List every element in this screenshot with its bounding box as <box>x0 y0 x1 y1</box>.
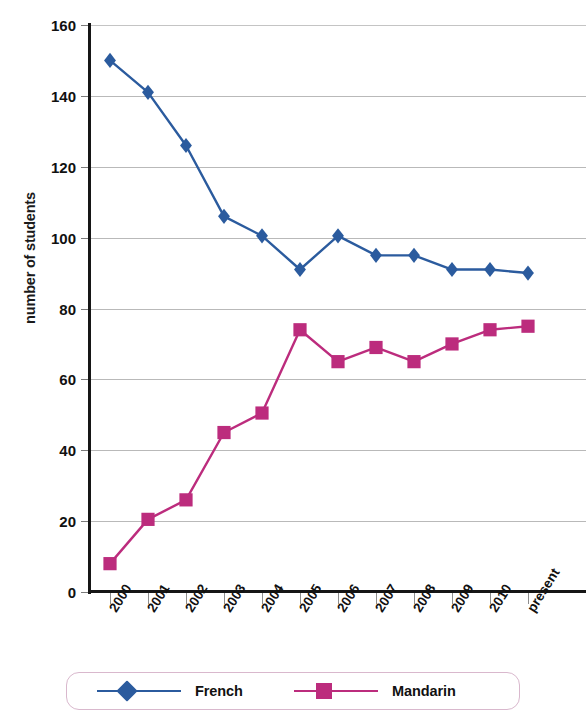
gridline <box>88 450 586 451</box>
y-tick-label: 0 <box>30 584 76 601</box>
y-axis-title: number of students <box>22 168 38 348</box>
gridline <box>88 379 586 380</box>
legend-line-french <box>97 690 181 693</box>
y-tick-label: 160 <box>30 17 76 34</box>
gridline <box>88 309 586 310</box>
y-tick-mark <box>81 450 88 451</box>
y-tick-label: 40 <box>30 442 76 459</box>
y-tick-label: 140 <box>30 87 76 104</box>
legend-label-mandarin: Mandarin <box>392 683 456 699</box>
y-tick-label: 120 <box>30 158 76 175</box>
y-tick-mark <box>81 309 88 310</box>
y-tick-mark <box>81 379 88 380</box>
gridline <box>88 238 586 239</box>
legend: French Mandarin <box>66 672 520 710</box>
y-tick-label: 100 <box>30 229 76 246</box>
y-tick-mark <box>81 167 88 168</box>
legend-entry-french[interactable]: French <box>97 673 243 709</box>
legend-marker-diamond-icon <box>116 680 137 701</box>
gridline <box>88 167 586 168</box>
gridline <box>88 521 586 522</box>
y-tick-mark <box>81 521 88 522</box>
y-tick-mark <box>81 238 88 239</box>
y-tick-mark <box>81 25 88 26</box>
gridline <box>88 96 586 97</box>
y-tick-mark <box>81 96 88 97</box>
gridline <box>88 25 586 26</box>
y-tick-mark <box>81 592 88 593</box>
legend-entry-mandarin[interactable]: Mandarin <box>294 673 456 709</box>
y-axis-line <box>88 23 91 594</box>
y-tick-label: 20 <box>30 513 76 530</box>
plot-area <box>88 25 586 592</box>
y-tick-label: 60 <box>30 371 76 388</box>
legend-marker-square-icon <box>316 683 332 699</box>
legend-line-mandarin <box>294 690 378 693</box>
legend-label-french: French <box>195 683 243 699</box>
y-tick-label: 80 <box>30 300 76 317</box>
line-chart: number of students 020406080100120140160… <box>0 0 586 712</box>
